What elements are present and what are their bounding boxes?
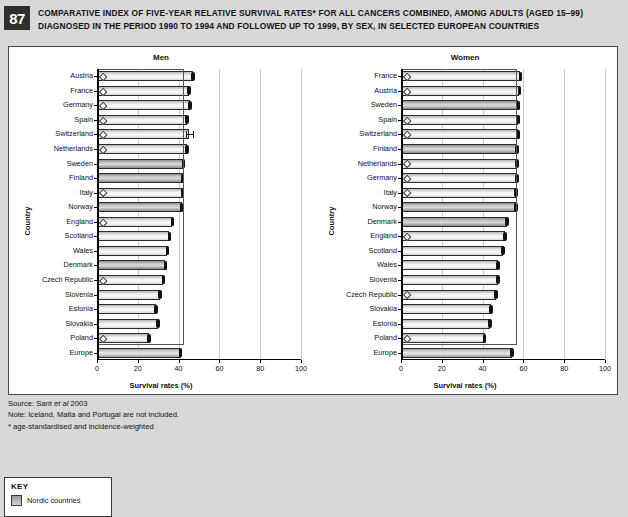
bar — [401, 100, 518, 110]
category-label: Germany — [367, 174, 397, 181]
reference-line — [183, 69, 184, 345]
bar-row: Scotland — [401, 244, 605, 259]
bar — [97, 129, 189, 139]
category-label: Finland — [373, 145, 397, 152]
bar — [401, 260, 498, 270]
bar-row: Netherlands — [401, 156, 605, 171]
source-italic: et al — [54, 399, 68, 408]
bar — [97, 86, 189, 96]
error-bar — [185, 145, 189, 154]
chart-men: Men Country AustriaFranceGermanySpainSwi… — [9, 47, 313, 394]
x-axis-label: Survival rates (%) — [9, 381, 313, 390]
category-label: Austria — [70, 72, 93, 79]
error-bar — [171, 217, 175, 226]
source-suffix: 2003 — [68, 399, 87, 408]
category-label: Italy — [80, 189, 93, 196]
error-bar-cap — [186, 131, 187, 138]
bar-row: Germany — [97, 98, 301, 113]
bar-row: Sweden — [97, 156, 301, 171]
category-label: Italy — [384, 189, 397, 196]
category-label: Wales — [73, 247, 93, 254]
category-label: Estonia — [373, 320, 397, 327]
bar-row: Germany — [401, 171, 605, 186]
bar-row: Finland — [97, 171, 301, 186]
x-axis-tick — [442, 360, 443, 363]
figure-header: 87 COMPARATIVE INDEX OF FIVE-YEAR RELATI… — [0, 0, 628, 30]
notes-block: Source: Sant et al 2003 Note: Iceland, M… — [8, 398, 618, 432]
bar — [97, 231, 169, 241]
bar — [401, 217, 507, 227]
bar — [97, 290, 160, 300]
x-axis-tick-label: 20 — [134, 364, 142, 373]
x-axis-tick — [401, 360, 402, 363]
bar-row: Poland — [401, 331, 605, 346]
error-bar — [489, 305, 493, 314]
x-axis-tick — [523, 360, 524, 363]
error-bar — [505, 217, 509, 226]
x-axis-tick-label: 20 — [438, 364, 446, 373]
bar-row: Norway — [97, 200, 301, 215]
bar-row: Spain — [401, 113, 605, 128]
bar — [97, 202, 182, 212]
category-label: Europe — [373, 349, 397, 356]
bar — [401, 173, 517, 183]
y-axis-label: Country — [327, 206, 336, 235]
category-label: Scotland — [369, 247, 397, 254]
category-label: Norway — [68, 203, 93, 210]
bar — [97, 319, 158, 329]
bar-row: Wales — [97, 244, 301, 259]
x-axis-tick-label: 80 — [256, 364, 264, 373]
category-label: Netherlands — [358, 160, 397, 167]
gridline — [301, 69, 302, 360]
x-axis-tick-label: 80 — [560, 364, 568, 373]
figure-number-badge: 87 — [4, 6, 30, 30]
bar — [401, 129, 518, 139]
reference-line-bottom — [401, 344, 516, 345]
category-label: Finland — [69, 174, 93, 181]
bar — [97, 100, 190, 110]
x-axis-tick — [179, 360, 180, 363]
x-axis-tick-label: 100 — [295, 364, 307, 373]
error-bar — [179, 348, 183, 357]
bar — [97, 159, 184, 169]
bar-row: Slovenia — [97, 287, 301, 302]
x-axis-tick — [301, 360, 302, 363]
error-bar — [168, 232, 172, 241]
bar-row: Norway — [401, 200, 605, 215]
y-axis — [401, 69, 403, 360]
bar-row: France — [97, 84, 301, 99]
charts-container: Men Country AustriaFranceGermanySpainSwi… — [9, 47, 617, 394]
bar-row: Netherlands — [97, 142, 301, 157]
category-label: Slovenia — [65, 291, 93, 298]
category-label: Denmark — [367, 218, 397, 225]
x-axis — [97, 359, 301, 361]
error-bar — [188, 101, 192, 110]
category-label: Wales — [377, 261, 397, 268]
error-bar — [519, 72, 523, 81]
bar-row: Austria — [97, 69, 301, 84]
category-label: Czech Republic — [42, 276, 93, 283]
bar-row: Slovenia — [401, 273, 605, 288]
category-label: Germany — [63, 101, 93, 108]
x-axis-tick-label: 40 — [479, 364, 487, 373]
key-swatch-icon — [11, 495, 22, 506]
category-label: England — [370, 232, 397, 239]
category-label: Spain — [74, 116, 93, 123]
error-bar — [503, 232, 507, 241]
figure-title-line-1: COMPARATIVE INDEX OF FIVE-YEAR RELATIVE … — [38, 8, 583, 18]
category-label: Poland — [70, 334, 93, 341]
error-bar — [156, 319, 160, 328]
plot-area: FranceAustriaSwedenSpainSwitzerlandFinla… — [401, 69, 605, 360]
bar — [401, 246, 503, 256]
x-axis-tick — [483, 360, 484, 363]
bar-row: France — [401, 69, 605, 84]
category-label: England — [66, 218, 93, 225]
bar-row: Italy — [401, 185, 605, 200]
bar — [97, 188, 183, 198]
category-label: Denmark — [63, 261, 93, 268]
bar-row: Finland — [401, 142, 605, 157]
bar-row: Spain — [97, 113, 301, 128]
bar — [97, 115, 187, 125]
bar-row: Denmark — [401, 215, 605, 230]
bar — [97, 348, 181, 358]
